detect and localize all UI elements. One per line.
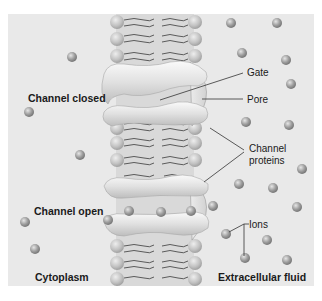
label-channel-closed: Channel closed (28, 93, 106, 104)
label-ions: Ions (249, 219, 268, 230)
label-gate: Gate (247, 67, 269, 78)
label-channel-proteins-line2: proteins (249, 155, 285, 166)
label-cytoplasm: Cytoplasm (35, 272, 89, 283)
label-extracellular-fluid: Extracellular fluid (218, 272, 306, 283)
label-channel-proteins-line1: Channel (249, 143, 286, 154)
label-channel-open: Channel open (34, 206, 103, 217)
label-pore: Pore (247, 94, 268, 105)
